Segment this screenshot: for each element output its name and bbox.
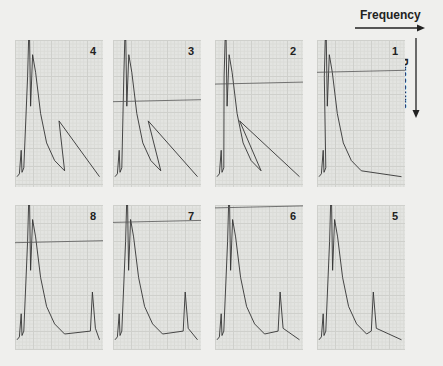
- panel-number: 8: [90, 210, 96, 222]
- pressure-arrow-icon: [412, 38, 420, 118]
- spectrum-panel-4: 4: [15, 40, 103, 187]
- spectrum-panel-7: 7: [113, 205, 201, 350]
- pressure-line: [113, 100, 201, 102]
- frequency-arrow-icon: [355, 24, 425, 32]
- spectrum-panel-6: 6: [215, 205, 303, 350]
- spectrum-trace: [215, 205, 303, 350]
- panel-number: 4: [90, 45, 96, 57]
- spectrum-panel-2: 2: [215, 40, 303, 187]
- spectrum-trace: [15, 40, 103, 187]
- spectrum-trace: [317, 40, 405, 187]
- spectrum-trace: [113, 40, 201, 187]
- spectrum-panel-5: 5: [317, 205, 405, 350]
- spectrum-panel-8: 8: [15, 205, 103, 350]
- panel-number: 5: [392, 210, 398, 222]
- spectrum-panel-1: 1: [317, 40, 405, 187]
- spectrum-trace: [113, 205, 201, 350]
- pressure-line: [317, 70, 405, 72]
- panel-number: 3: [188, 45, 194, 57]
- panel-number: 2: [290, 45, 296, 57]
- spectrum-trace: [215, 40, 303, 187]
- panel-number: 7: [188, 210, 194, 222]
- spectrum-trace: [317, 205, 405, 350]
- spectrum-trace: [15, 205, 103, 350]
- panel-number: 1: [392, 45, 398, 57]
- pressure-line: [15, 241, 103, 243]
- frequency-axis-label: Frequency: [360, 8, 421, 22]
- panel-number: 6: [290, 210, 296, 222]
- spectrum-panel-3: 3: [113, 40, 201, 187]
